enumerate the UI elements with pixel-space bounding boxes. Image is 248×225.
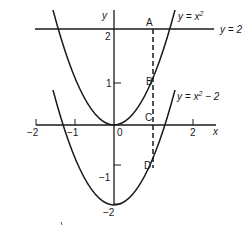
x-axis-label: x bbox=[212, 126, 219, 137]
curve-label-x-squared: y = x2 bbox=[177, 10, 203, 22]
x-tick-label-2: 2 bbox=[190, 127, 196, 138]
curve-label-y-equals-2: y = 2 bbox=[219, 24, 242, 35]
function-graph-diagram: y x −2 −1 0 2 2 1 −1 −2 A B C D y = x2 y… bbox=[0, 0, 248, 225]
x-tick-label-neg1: −1 bbox=[67, 127, 79, 138]
y-tick-label-2: 2 bbox=[105, 31, 111, 42]
y-tick-label-neg1: −1 bbox=[99, 172, 111, 183]
y-tick-label-neg2: −2 bbox=[103, 207, 115, 218]
y-tick-label-1: 1 bbox=[106, 78, 112, 89]
point-label-b: B bbox=[146, 76, 153, 87]
y-axis-label: y bbox=[101, 10, 108, 21]
point-label-c: C bbox=[145, 112, 152, 123]
x-tick-label-neg2: −2 bbox=[27, 127, 39, 138]
curve-label-x-squared-minus-2: y = x2 − 2 bbox=[176, 90, 220, 102]
stray-mark bbox=[61, 222, 62, 225]
x-tick-label-0: 0 bbox=[117, 127, 123, 138]
point-label-a: A bbox=[146, 17, 153, 28]
point-label-d: D bbox=[144, 160, 151, 171]
